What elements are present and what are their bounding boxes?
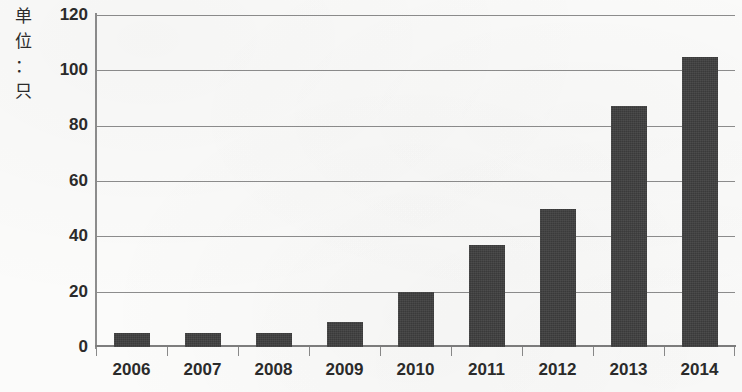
- x-axis-tick: [238, 347, 239, 356]
- bar-slot: [451, 15, 522, 347]
- x-axis-labels: 2006 2007 2008 2009 2010 2011 2012 2013 …: [96, 360, 735, 390]
- y-axis-tick-label: 20: [40, 282, 88, 302]
- bar-series: [96, 15, 735, 347]
- bar-2011[interactable]: [469, 245, 505, 347]
- y-axis-tick-label: 0: [40, 337, 88, 357]
- x-axis-label-2013: 2013: [593, 360, 664, 390]
- x-axis-label-2010: 2010: [380, 360, 451, 390]
- bar-2012[interactable]: [540, 209, 576, 347]
- bar-2006[interactable]: [114, 333, 150, 347]
- y-axis-unit-char-2: 位: [10, 29, 36, 54]
- bar-slot: [664, 15, 735, 347]
- x-axis-tick: [451, 347, 452, 356]
- bar-2013[interactable]: [611, 106, 647, 347]
- bar-2007[interactable]: [185, 333, 221, 347]
- bar-slot: [522, 15, 593, 347]
- y-axis-unit-char-1: 单: [10, 4, 36, 29]
- bar-slot: [593, 15, 664, 347]
- y-axis-tick-label: 60: [40, 171, 88, 191]
- x-axis-label-2012: 2012: [522, 360, 593, 390]
- bar-2009[interactable]: [327, 322, 363, 347]
- x-axis-label-2009: 2009: [309, 360, 380, 390]
- bar-2008[interactable]: [256, 333, 292, 347]
- x-axis-label-2014: 2014: [664, 360, 735, 390]
- x-axis-label-2008: 2008: [238, 360, 309, 390]
- x-axis-label-2006: 2006: [96, 360, 167, 390]
- bar-slot: [309, 15, 380, 347]
- x-axis-ticks: [96, 347, 735, 357]
- y-axis-unit-label: 单 位 ： 只: [10, 4, 36, 104]
- x-axis-tick: [734, 347, 735, 356]
- x-axis-tick: [309, 347, 310, 356]
- x-axis-tick: [167, 347, 168, 356]
- y-axis-tick-label: 80: [40, 115, 88, 135]
- bar-slot: [380, 15, 451, 347]
- bar-slot: [96, 15, 167, 347]
- x-axis-label-2007: 2007: [167, 360, 238, 390]
- y-axis-tick-label: 40: [40, 226, 88, 246]
- plot-area: [96, 15, 735, 347]
- x-axis-label-2011: 2011: [451, 360, 522, 390]
- bar-2010[interactable]: [398, 292, 434, 347]
- x-axis-tick: [593, 347, 594, 356]
- y-axis-tick-label: 100: [40, 60, 88, 80]
- chart-page: 单 位 ： 只 120 100 80 60 40 20 0: [0, 0, 742, 392]
- bar-slot: [238, 15, 309, 347]
- y-axis-unit-char-4: 只: [10, 79, 36, 104]
- x-axis-tick: [664, 347, 665, 356]
- bar-slot: [167, 15, 238, 347]
- x-axis-tick: [380, 347, 381, 356]
- y-axis-tick-label: 120: [40, 5, 88, 25]
- y-axis-tick-labels: 120 100 80 60 40 20 0: [36, 0, 88, 392]
- x-axis-tick: [522, 347, 523, 356]
- x-axis-tick: [96, 347, 97, 356]
- y-axis-unit-char-3: ：: [10, 54, 36, 79]
- bar-2014[interactable]: [682, 57, 718, 348]
